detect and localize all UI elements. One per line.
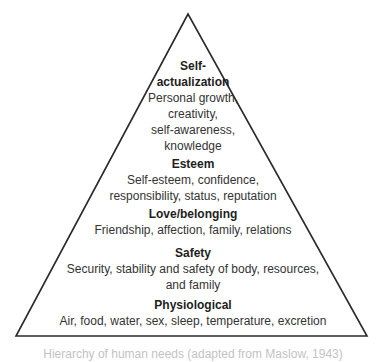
level-self-actualization: Self- actualization Personal growth, cre… bbox=[0, 59, 386, 154]
level-description: knowledge bbox=[0, 139, 386, 154]
level-title: Safety bbox=[0, 246, 386, 261]
level-physiological: Physiological Air, food, water, sex, sle… bbox=[0, 298, 386, 329]
level-esteem: Esteem Self-esteem, confidence, responsi… bbox=[0, 157, 386, 204]
level-title: Physiological bbox=[0, 298, 386, 313]
level-description: Self-esteem, confidence, bbox=[0, 173, 386, 188]
level-description: and family bbox=[0, 278, 386, 293]
level-title: actualization bbox=[0, 75, 386, 90]
level-description: Friendship, affection, family, relations bbox=[0, 223, 386, 238]
level-description: Security, stability and safety of body, … bbox=[0, 262, 386, 277]
level-love-belonging: Love/belonging Friendship, affection, fa… bbox=[0, 207, 386, 238]
level-description: creativity, bbox=[0, 107, 386, 122]
level-description: Air, food, water, sex, sleep, temperatur… bbox=[0, 314, 386, 329]
level-title: Esteem bbox=[0, 157, 386, 172]
level-title: Love/belonging bbox=[0, 207, 386, 222]
figure-caption: Hierarchy of human needs (adapted from M… bbox=[0, 347, 386, 362]
level-title: Self- bbox=[0, 59, 386, 74]
level-safety: Safety Security, stability and safety of… bbox=[0, 246, 386, 293]
level-description: responsibility, status, reputation bbox=[0, 189, 386, 204]
level-description: self-awareness, bbox=[0, 123, 386, 138]
level-description: Personal growth, bbox=[0, 91, 386, 106]
